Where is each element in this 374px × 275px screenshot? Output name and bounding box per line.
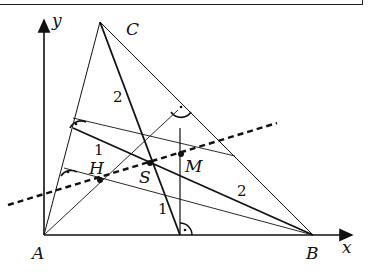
median-b xyxy=(73,128,313,235)
ratio-label-b-left: 1 xyxy=(94,141,104,159)
label-s: S xyxy=(139,167,151,187)
geometry-diagram: y x A B C H S M 2 1 1 2 xyxy=(0,0,374,275)
point-s xyxy=(147,160,153,166)
right-angle-marker-bc xyxy=(171,106,191,118)
label-x-axis: x xyxy=(342,237,352,257)
median-c xyxy=(100,22,180,235)
ratio-label-c-lower: 1 xyxy=(158,200,168,218)
label-h: H xyxy=(88,158,105,178)
label-a: A xyxy=(30,243,44,263)
side-ac xyxy=(44,22,100,235)
label-c: C xyxy=(126,19,139,39)
label-b: B xyxy=(305,243,319,263)
side-bc xyxy=(100,22,313,235)
ratio-label-b-right: 2 xyxy=(237,182,247,200)
ratio-label-c-upper: 2 xyxy=(113,88,123,106)
point-m xyxy=(178,151,184,157)
label-m: M xyxy=(184,156,203,176)
right-angle-marker-ac-lower xyxy=(61,170,77,176)
right-angle-marker-ab xyxy=(180,223,192,235)
label-y-axis: y xyxy=(51,10,62,30)
